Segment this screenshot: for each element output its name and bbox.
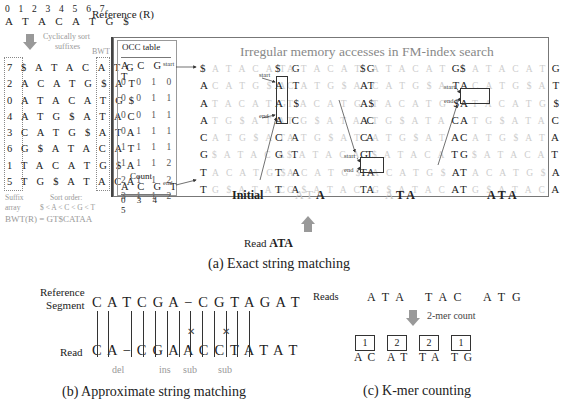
count-values: 0 3 4 5 [121, 194, 171, 215]
count-title: Count [130, 171, 152, 181]
kmer-count-box: 2 [419, 335, 439, 351]
start-pointer-label: start [259, 71, 270, 78]
caption-b: (b) Approximate string matching [62, 384, 246, 400]
reference-segment-sequence: C A T C G A − C G T A G A T [92, 294, 301, 311]
mismatch-icon: ✕ [187, 326, 195, 337]
caption-c: (c) K-mer counting [363, 383, 471, 399]
down-arrow-icon [23, 34, 37, 50]
occ-row: 0 0 1 1 [121, 90, 175, 106]
annotation-ins: ins [159, 364, 171, 375]
start-pointer-label: start [444, 83, 455, 90]
read-label-b: Read [60, 346, 83, 358]
step-label-ta: A T A [385, 188, 415, 203]
reference-segment-label: Reference Segment [40, 286, 85, 312]
sort-order: $ < A < C < G < T [40, 203, 95, 212]
annotation-del: del [112, 364, 124, 375]
end-pointer-label: end [444, 97, 453, 104]
annotation-sub: sub [218, 364, 232, 375]
sort-note-1: Cyclically sort [43, 32, 90, 41]
up-arrow-icon [301, 216, 315, 232]
range-box-ta [360, 157, 384, 173]
bwt-result: BWT(R) = GT$CATAA [5, 214, 92, 224]
step-label-ata: A T A [487, 188, 517, 203]
range-box-a [276, 76, 288, 124]
occ-row: 1 1 1 2 [121, 155, 175, 171]
step-label-initial: Initial [232, 188, 263, 203]
read-sequence: C A − C G A A C C T A T A T [92, 342, 298, 359]
read-item: A T G [483, 290, 523, 305]
kmer-count-box: 1 [451, 335, 471, 351]
end-pointer-label: end [163, 179, 172, 186]
start-pointer-label: start [344, 152, 355, 159]
suffix-label-1: Suffix [5, 193, 24, 202]
fm-index-title: Irregular memory accesses in FM-index se… [240, 44, 494, 60]
range-box-ata [460, 88, 490, 104]
read-item: T A C [425, 290, 463, 305]
occ-row: 0 1 1 1 [121, 123, 175, 139]
occ-row: 0 0 1 1 [121, 107, 175, 123]
arrow-label: 2-mer count [427, 310, 476, 321]
end-pointer-label: end [344, 166, 353, 173]
down-arrow-icon [406, 310, 420, 326]
caption-a: (a) Exact string matching [208, 256, 350, 272]
occ-table-title: OCC table [122, 42, 160, 52]
bwm-step-ta: $A T A C A T G AC A T G $ A T AT A C A T… [360, 60, 461, 198]
sort-order-label: Sort order: [50, 193, 82, 202]
kmer-label: T G [451, 351, 474, 363]
read-item: A T A [367, 290, 406, 305]
annotation-sub: sub [183, 364, 197, 375]
read-label: Read ATA [244, 236, 293, 251]
kmer-label: A T [387, 351, 409, 363]
kmer-label: A C [354, 351, 377, 363]
occ-row: 0 0 1 0 [121, 74, 175, 90]
kmer-count-box: 1 [355, 335, 375, 351]
start-pointer-label: start [163, 60, 174, 67]
kmer-label: T A [419, 351, 441, 363]
reference-label: Reference (R) [92, 8, 154, 20]
kmer-count-box: 2 [387, 335, 407, 351]
mismatch-icon: ✕ [222, 326, 230, 337]
bwm-step-ata: $A T A C A T G AC A T G $ A T AT A C A T… [460, 60, 561, 198]
suffix-label-2: array [5, 203, 20, 212]
occ-row: 1 1 1 1 [121, 139, 175, 155]
bwt-header: BWT [92, 47, 110, 56]
step-label-a: A T A [295, 188, 325, 203]
sort-note-2: suffixes [55, 42, 80, 51]
reads-label: Reads [313, 291, 339, 302]
end-pointer-label: end [259, 112, 268, 119]
